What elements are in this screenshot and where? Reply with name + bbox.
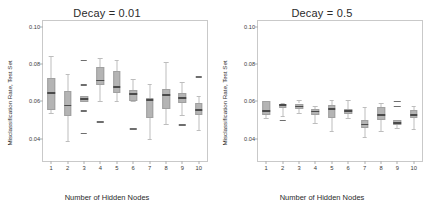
whisker-lower (315, 115, 316, 124)
box (162, 89, 170, 109)
whisker-cap-upper (49, 56, 54, 57)
y-axis-label: Misclassification Rate, Test Set (217, 0, 231, 206)
whisker-cap-lower (114, 101, 119, 102)
median-line (328, 108, 336, 110)
whisker-cap-upper (313, 106, 318, 107)
median-line (113, 86, 121, 88)
median-line (129, 93, 137, 95)
whisker-cap-lower (411, 129, 416, 130)
y-tick-label: 0.08 (29, 61, 40, 67)
x-tick-label: 4 (314, 165, 317, 171)
whisker-cap-upper (147, 84, 152, 85)
y-tick-mark (255, 26, 258, 27)
median-line (394, 122, 402, 124)
median-line (279, 104, 287, 106)
x-tick-mark (331, 161, 332, 164)
x-tick-mark (133, 161, 134, 164)
x-tick-mark (315, 161, 316, 164)
x-tick-mark (182, 161, 183, 164)
whisker-cap-upper (297, 100, 302, 101)
x-tick-mark (67, 161, 68, 164)
median-line (179, 97, 187, 99)
x-tick-mark (100, 161, 101, 164)
x-tick-mark (116, 161, 117, 164)
x-tick-label: 5 (115, 165, 118, 171)
outlier-marker (279, 120, 285, 121)
outlier-marker (81, 110, 87, 111)
whisker-lower (166, 109, 167, 124)
outlier-marker (81, 133, 87, 134)
median-line (80, 98, 88, 100)
whisker-cap-lower (297, 113, 302, 114)
x-tick-mark (299, 161, 300, 164)
x-tick-label: 2 (281, 165, 284, 171)
y-tick-label: 0.06 (244, 98, 255, 104)
median-line (146, 99, 154, 101)
whisker-cap-lower (131, 101, 136, 102)
median-line (312, 111, 320, 113)
whisker-cap-upper (346, 100, 351, 101)
x-tick-label: 3 (297, 165, 300, 171)
x-tick-label: 2 (66, 165, 69, 171)
x-tick-label: 9 (181, 165, 184, 171)
whisker-cap-upper (98, 58, 103, 59)
x-tick-mark (198, 161, 199, 164)
box (129, 90, 137, 100)
panel-title: Decay = 0.01 (0, 7, 214, 19)
y-tick-label: 0.10 (244, 24, 255, 30)
median-line (295, 106, 303, 108)
whisker-lower (100, 85, 101, 101)
outlier-marker (130, 128, 136, 129)
x-tick-label: 10 (411, 165, 417, 171)
y-tick-mark (255, 63, 258, 64)
whisker-cap-upper (164, 62, 169, 63)
x-tick-label: 8 (379, 165, 382, 171)
whisker-cap-upper (114, 60, 119, 61)
median-line (97, 80, 105, 82)
median-line (64, 105, 72, 107)
x-tick-mark (348, 161, 349, 164)
x-tick-mark (364, 161, 365, 164)
x-tick-mark (149, 161, 150, 164)
whisker-lower (381, 120, 382, 130)
x-tick-label: 7 (363, 165, 366, 171)
x-tick-mark (282, 161, 283, 164)
whisker-cap-upper (329, 100, 334, 101)
whisker-cap-lower (180, 115, 185, 116)
median-line (47, 92, 55, 94)
outlier-marker (81, 84, 87, 85)
whisker-cap-upper (65, 74, 70, 75)
whisker-upper (51, 56, 52, 77)
median-line (195, 109, 203, 111)
whisker-lower (182, 103, 183, 115)
median-line (377, 114, 385, 116)
x-tick-mark (166, 161, 167, 164)
x-tick-label: 3 (82, 165, 85, 171)
whisker-cap-lower (395, 128, 400, 129)
x-tick-label: 10 (196, 165, 202, 171)
box (47, 78, 55, 110)
y-tick-label: 0.06 (29, 98, 40, 104)
x-tick-label: 5 (330, 165, 333, 171)
outlier-marker (196, 76, 202, 77)
panel-decay-001: Decay = 0.01 Misclassification Rate, Tes… (0, 0, 214, 206)
whisker-cap-upper (180, 82, 185, 83)
whisker-lower (331, 118, 332, 131)
x-tick-label: 1 (265, 165, 268, 171)
whisker-cap-lower (65, 141, 70, 142)
whisker-upper (166, 62, 167, 89)
box (262, 101, 270, 114)
whisker-cap-lower (280, 116, 285, 117)
outlier-marker (97, 121, 103, 122)
y-tick-label: 0.08 (244, 61, 255, 67)
whisker-upper (116, 60, 117, 72)
whisker-upper (348, 100, 349, 109)
outlier-marker (394, 101, 400, 102)
whisker-lower (413, 118, 414, 129)
boxplot-figure: Decay = 0.01 Misclassification Rate, Tes… (0, 0, 429, 206)
panel-title: Decay = 0.5 (215, 7, 429, 19)
whisker-upper (364, 107, 365, 120)
whisker-lower (198, 115, 199, 130)
whisker-cap-lower (379, 131, 384, 132)
x-tick-label: 4 (99, 165, 102, 171)
